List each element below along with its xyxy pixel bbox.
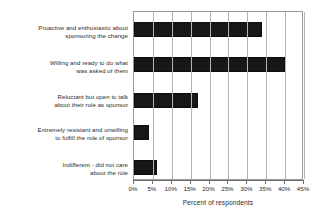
- x-axis-tick-label: 15%: [180, 185, 200, 193]
- x-axis-tick-label: 10%: [161, 185, 181, 193]
- x-axis-tick: [190, 180, 191, 184]
- gridline: [266, 12, 267, 179]
- category-label-line: about the role: [0, 169, 128, 177]
- category-label: Indifferent - did not care about the rol…: [0, 161, 128, 177]
- category-label: Extremely resistant and unwilling to ful…: [0, 126, 128, 142]
- gridline: [172, 12, 173, 179]
- x-axis-tick: [152, 180, 153, 184]
- category-label-line: Extremely resistant and unwilling: [0, 126, 128, 134]
- gridline: [191, 12, 192, 179]
- gridline: [228, 12, 229, 179]
- x-axis-tick: [284, 180, 285, 184]
- gridline: [153, 12, 154, 179]
- x-axis-tick: [246, 180, 247, 184]
- category-label: Reluctant but open to talk about their r…: [0, 93, 128, 109]
- x-axis-line: [133, 180, 303, 181]
- category-label-line: Reluctant but open to talk: [0, 93, 128, 101]
- x-axis-tick: [171, 180, 172, 184]
- category-label-line: Proactive and enthusiastic about: [0, 24, 128, 32]
- x-axis-tick: [227, 180, 228, 184]
- gridline: [247, 12, 248, 179]
- category-label: Willing and ready to do what was asked o…: [0, 59, 128, 75]
- x-axis-tick-label: 5%: [142, 185, 162, 193]
- x-axis-tick-label: 25%: [217, 185, 237, 193]
- category-label-line: Willing and ready to do what: [0, 59, 128, 67]
- x-axis-tick-label: 20%: [199, 185, 219, 193]
- category-label: Proactive and enthusiastic about sponsor…: [0, 24, 128, 40]
- x-axis-tick: [209, 180, 210, 184]
- gridline: [210, 12, 211, 179]
- bar: [134, 93, 198, 108]
- category-label-line: sponsoring the change: [0, 32, 128, 40]
- category-label-line: to fulfill the role of sponsor: [0, 134, 128, 142]
- category-label-line: about their role as sponsor: [0, 101, 128, 109]
- plot-area: [133, 11, 303, 180]
- x-axis-tick-label: 35%: [255, 185, 275, 193]
- bars-layer: [134, 12, 302, 179]
- category-label-line: Indifferent - did not care: [0, 161, 128, 169]
- x-axis-tick-label: 40%: [274, 185, 294, 193]
- bar-chart: Proactive and enthusiastic about sponsor…: [0, 0, 330, 219]
- category-label-line: was asked of them: [0, 67, 128, 75]
- x-axis-tick-label: 30%: [236, 185, 256, 193]
- bar: [134, 125, 149, 140]
- gridline: [285, 12, 286, 179]
- x-axis-tick: [133, 180, 134, 184]
- x-axis-tick-label: 45%: [293, 185, 313, 193]
- x-axis-tick: [265, 180, 266, 184]
- category-axis-labels: Proactive and enthusiastic about sponsor…: [0, 11, 131, 180]
- gridline: [304, 12, 305, 179]
- x-axis-title: Percent of respondents: [133, 199, 303, 206]
- x-axis-tick: [303, 180, 304, 184]
- x-axis-tick-label: 0%: [123, 185, 143, 193]
